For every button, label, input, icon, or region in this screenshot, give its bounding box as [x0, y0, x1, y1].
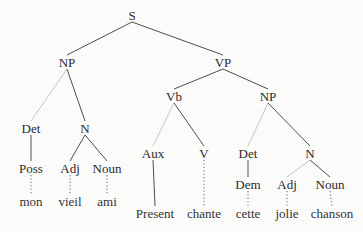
word-vieil: vieil — [58, 195, 81, 208]
edge-s-np1 — [67, 22, 132, 55]
node-poss: Poss — [19, 162, 43, 175]
parse-tree-diagram: S NP VP Det N Poss Adj Noun mon vieil am… — [0, 0, 363, 232]
node-noun-object: Noun — [316, 178, 345, 191]
edge-aux-present — [153, 160, 155, 206]
edge-noun2-chanson — [330, 191, 332, 206]
edge-n2-noun2 — [310, 160, 330, 177]
node-np-object: NP — [260, 90, 277, 103]
edge-np1-det1 — [31, 69, 67, 121]
word-present: Present — [136, 207, 174, 220]
word-chante: chante — [187, 207, 221, 220]
node-np-subject: NP — [59, 56, 76, 69]
node-vb: Vb — [166, 90, 182, 103]
edge-vb-v — [174, 103, 204, 146]
node-adj-object: Adj — [277, 178, 297, 191]
word-mon: mon — [19, 195, 42, 208]
edge-np2-n2 — [268, 103, 310, 146]
node-noun-subject: Noun — [93, 162, 122, 175]
word-cette: cette — [236, 207, 261, 220]
edge-n1-noun1 — [85, 135, 107, 161]
tree-edges — [0, 0, 363, 232]
edge-vp-vb — [174, 69, 223, 89]
edge-np1-n1 — [67, 69, 85, 121]
edge-n1-adj1 — [70, 135, 85, 161]
word-ami: ami — [97, 195, 117, 208]
node-v: V — [199, 147, 208, 160]
node-s: S — [128, 9, 135, 22]
node-aux: Aux — [142, 147, 164, 160]
node-adj-subject: Adj — [60, 162, 80, 175]
word-jolie: jolie — [275, 207, 298, 220]
node-det-subject: Det — [22, 122, 41, 135]
node-n-subject: N — [80, 122, 89, 135]
edge-s-vp — [132, 22, 223, 55]
node-n-object: N — [305, 147, 314, 160]
node-vp: VP — [215, 56, 232, 69]
word-chanson: chanson — [311, 207, 354, 220]
edge-vp-np2 — [223, 69, 268, 89]
edge-vb-aux — [153, 103, 174, 146]
node-dem: Dem — [235, 178, 260, 191]
node-det-object: Det — [239, 147, 258, 160]
edge-n2-adj2 — [287, 160, 310, 177]
edge-np2-det2 — [248, 103, 268, 146]
